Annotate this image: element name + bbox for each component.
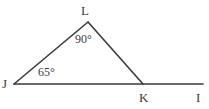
triangle-diagram-svg <box>0 0 209 109</box>
vertex-label-l: L <box>81 4 89 17</box>
angle-label-at-j: 65° <box>38 66 55 78</box>
segment-lk <box>88 22 143 84</box>
vertex-label-k: K <box>139 91 148 104</box>
geometry-figure: L J K I 90° 65° <box>0 0 209 109</box>
angle-label-at-l: 90° <box>75 33 92 45</box>
vertex-label-j: J <box>2 77 7 90</box>
vertex-label-i: I <box>196 91 200 104</box>
